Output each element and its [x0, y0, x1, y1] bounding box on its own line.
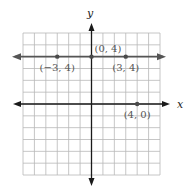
point-label: (0, 4) — [95, 43, 122, 54]
series-right-arrow-icon — [157, 53, 166, 60]
y-axis-up-arrow-icon — [89, 23, 95, 31]
axes — [13, 23, 170, 186]
y-axis-label: y — [86, 7, 94, 20]
data-point — [135, 102, 139, 106]
series-left-arrow-icon — [12, 53, 21, 60]
x-axis-left-arrow-icon — [13, 101, 21, 107]
point-label: (−3, 4) — [40, 62, 75, 73]
data-point — [55, 54, 59, 58]
y-axis-down-arrow-icon — [89, 178, 95, 186]
coordinate-plane: (−3, 4)(0, 4)(3, 4)(4, 0) x y — [0, 0, 193, 192]
series-layer — [12, 53, 166, 60]
x-axis-right-arrow-icon — [162, 101, 170, 107]
point-label: (3, 4) — [112, 62, 139, 73]
data-point — [124, 54, 128, 58]
points-layer: (−3, 4)(0, 4)(3, 4)(4, 0) — [40, 43, 151, 120]
point-label: (4, 0) — [124, 109, 151, 120]
data-point — [89, 54, 93, 58]
x-axis-label: x — [177, 98, 184, 111]
